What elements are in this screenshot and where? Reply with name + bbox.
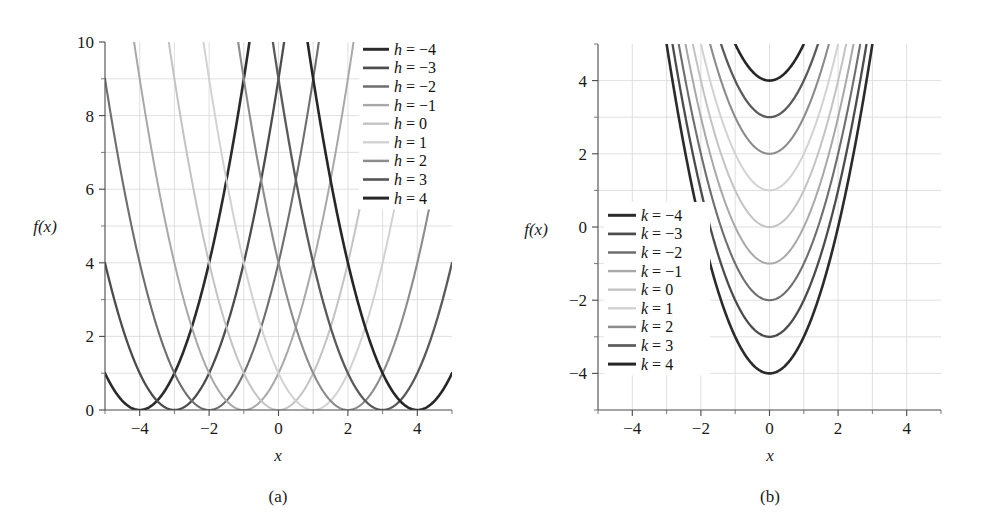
y-axis-label: f(x) xyxy=(33,217,57,236)
legend: h = −4h = −3h = −2h = −1h = 0h = 1h = 2h… xyxy=(359,36,461,209)
legend-value: = −1 xyxy=(648,263,682,280)
legend-label: h = 1 xyxy=(394,134,427,151)
y-tick-label: 8 xyxy=(86,107,95,126)
y-tick-label: 4 xyxy=(86,254,95,273)
legend-value: = 0 xyxy=(648,281,673,298)
legend-value: = 4 xyxy=(648,356,673,373)
legend-value: = −4 xyxy=(402,41,436,58)
y-tick-label: 10 xyxy=(77,33,94,52)
legend-value: = 2 xyxy=(648,318,673,335)
x-tick-label: −4 xyxy=(131,419,150,438)
y-tick-label: 2 xyxy=(579,145,588,164)
y-axis-label: f(x) xyxy=(524,220,548,239)
x-tick-label: −4 xyxy=(623,419,642,438)
x-axis-label: x xyxy=(765,446,774,465)
y-tick-label: −2 xyxy=(569,291,587,310)
x-tick-label: −2 xyxy=(692,419,710,438)
chart-svg-b: −4−2024−4−2024f(x)x(b)k = −4k = −3k = −2… xyxy=(490,0,983,522)
y-tick-label: 0 xyxy=(579,218,588,237)
legend-var: h xyxy=(394,115,402,132)
legend-var: h xyxy=(394,59,402,76)
legend-value: = −3 xyxy=(648,225,682,242)
y-tick-label: 2 xyxy=(86,327,95,346)
legend-value: = 1 xyxy=(648,300,673,317)
legend-label: h = 0 xyxy=(394,115,427,132)
x-tick-label: 2 xyxy=(834,419,843,438)
legend-label: k = −3 xyxy=(641,225,682,242)
legend-label: h = 2 xyxy=(394,152,427,169)
legend-var: h xyxy=(394,134,402,151)
legend-var: h xyxy=(394,97,402,114)
chart-panel-b: −4−2024−4−2024f(x)x(b)k = −4k = −3k = −2… xyxy=(490,0,983,522)
legend-label: k = 0 xyxy=(641,281,673,298)
legend-label: k = 1 xyxy=(641,300,673,317)
curve-h--4 xyxy=(105,0,385,410)
x-tick-label: 2 xyxy=(344,419,353,438)
legend-value: = −2 xyxy=(648,244,682,261)
legend-var: h xyxy=(394,152,402,169)
legend-value: = 0 xyxy=(402,115,427,132)
legend-value: = −4 xyxy=(648,207,682,224)
panel-caption: (b) xyxy=(760,487,780,506)
legend-value: = −2 xyxy=(402,78,436,95)
legend-label: k = 3 xyxy=(641,337,673,354)
y-tick-label: 4 xyxy=(579,72,588,91)
legend-label: k = 4 xyxy=(641,356,673,373)
chart-panel-a: −4−20240246810f(x)x(a)h = −4h = −3h = −2… xyxy=(0,0,490,522)
y-axis-label-text: f(x) xyxy=(33,217,57,236)
legend-label: k = −2 xyxy=(641,244,682,261)
legend-value: = 2 xyxy=(402,152,427,169)
legend-label: h = 3 xyxy=(394,171,427,188)
x-tick-label: 0 xyxy=(765,419,774,438)
legend-value: = 3 xyxy=(648,337,673,354)
legend: k = −4k = −3k = −2k = −1k = 0k = 1k = 2k… xyxy=(604,202,710,375)
x-tick-label: 4 xyxy=(413,419,422,438)
legend-label: k = 2 xyxy=(641,318,673,335)
legend-label: h = −3 xyxy=(394,59,436,76)
y-tick-label: 6 xyxy=(86,180,95,199)
legend-label: h = 4 xyxy=(394,190,427,207)
legend-value: = 4 xyxy=(402,190,427,207)
legend-label: k = −1 xyxy=(641,263,682,280)
legend-label: h = −4 xyxy=(394,41,436,58)
x-tick-label: 4 xyxy=(902,419,911,438)
panel-caption: (a) xyxy=(269,487,288,506)
legend-label: h = −2 xyxy=(394,78,436,95)
legend-value: = −3 xyxy=(402,59,436,76)
legend-value: = −1 xyxy=(402,97,436,114)
legend-var: h xyxy=(394,78,402,95)
legend-label: h = −1 xyxy=(394,97,436,114)
x-axis-label: x xyxy=(273,446,282,465)
legend-var: h xyxy=(394,171,402,188)
legend-value: = 3 xyxy=(402,171,427,188)
y-tick-label: 0 xyxy=(86,401,95,420)
figure-container: −4−20240246810f(x)x(a)h = −4h = −3h = −2… xyxy=(0,0,983,522)
legend-label: k = −4 xyxy=(641,207,682,224)
legend-var: h xyxy=(394,41,402,58)
y-tick-label: −4 xyxy=(569,364,588,383)
legend-var: h xyxy=(394,190,402,207)
x-tick-label: −2 xyxy=(200,419,218,438)
x-tick-label: 0 xyxy=(274,419,283,438)
legend-value: = 1 xyxy=(402,134,427,151)
y-axis-label-text: f(x) xyxy=(524,220,548,239)
chart-svg-a: −4−20240246810f(x)x(a)h = −4h = −3h = −2… xyxy=(0,0,490,522)
